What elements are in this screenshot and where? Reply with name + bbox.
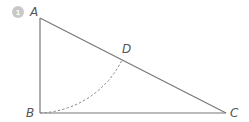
arc-bd [40, 60, 122, 113]
label-d: D [122, 42, 131, 56]
label-c: C [230, 106, 239, 120]
label-b: B [26, 106, 34, 120]
segment-ca [40, 18, 226, 113]
label-a: A [29, 5, 38, 19]
svg-text:1: 1 [16, 8, 21, 17]
figure-number-badge: 1 [12, 6, 24, 18]
triangle-diagram: 1 A B C D [0, 0, 249, 122]
